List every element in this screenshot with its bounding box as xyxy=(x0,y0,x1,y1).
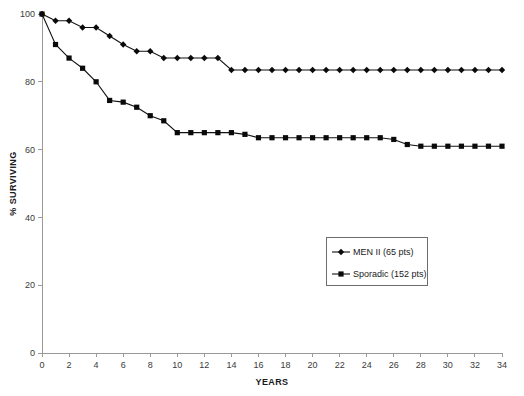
legend-label: Sporadic (152 pts) xyxy=(353,269,427,279)
data-point-marker xyxy=(432,144,437,149)
data-point-marker xyxy=(336,67,342,73)
data-point-marker xyxy=(283,135,288,140)
x-tick-label: 18 xyxy=(281,360,291,370)
series-line xyxy=(42,14,502,146)
x-tick-label: 16 xyxy=(253,360,263,370)
x-tick-label: 20 xyxy=(308,360,318,370)
series-layer xyxy=(39,11,505,149)
data-point-marker xyxy=(215,130,220,135)
data-point-marker xyxy=(309,67,315,73)
x-tick-label: 22 xyxy=(335,360,345,370)
survival-chart: 020406080100 024681012141618202224262830… xyxy=(0,0,524,396)
data-point-marker xyxy=(378,135,383,140)
data-point-marker xyxy=(499,67,505,73)
data-point-marker xyxy=(499,144,504,149)
x-tick-label: 0 xyxy=(39,360,44,370)
data-point-marker xyxy=(66,55,71,60)
data-point-marker xyxy=(66,18,72,24)
data-point-marker xyxy=(52,18,58,24)
series-line xyxy=(42,14,502,70)
data-point-marker xyxy=(472,144,477,149)
data-point-marker xyxy=(364,67,370,73)
data-point-marker xyxy=(242,132,247,137)
data-point-marker xyxy=(418,67,424,73)
data-point-marker xyxy=(121,100,126,105)
data-point-marker xyxy=(242,67,248,73)
data-point-marker xyxy=(229,130,234,135)
data-point-marker xyxy=(39,11,44,16)
x-tick-label: 2 xyxy=(67,360,72,370)
data-point-marker xyxy=(310,135,315,140)
x-tick-label: 24 xyxy=(362,360,372,370)
data-point-marker xyxy=(255,67,261,73)
data-point-marker xyxy=(445,144,450,149)
y-tick-label: 20 xyxy=(25,280,35,290)
data-point-marker xyxy=(458,67,464,73)
data-point-marker xyxy=(107,98,112,103)
x-tick-label: 10 xyxy=(172,360,182,370)
data-point-marker xyxy=(338,271,343,276)
data-point-marker xyxy=(175,130,180,135)
data-point-marker xyxy=(282,67,288,73)
data-point-marker xyxy=(323,67,329,73)
data-point-marker xyxy=(296,67,302,73)
data-point-marker xyxy=(431,67,437,73)
data-point-marker xyxy=(485,67,491,73)
chart-canvas: 020406080100 024681012141618202224262830… xyxy=(0,0,524,396)
data-point-marker xyxy=(269,67,275,73)
data-point-marker xyxy=(445,67,451,73)
x-tick-label: 32 xyxy=(470,360,480,370)
data-point-marker xyxy=(147,48,153,54)
data-point-marker xyxy=(418,144,423,149)
data-point-marker xyxy=(53,42,58,47)
series-2 xyxy=(39,11,504,148)
data-point-marker xyxy=(161,55,167,61)
data-point-marker xyxy=(486,144,491,149)
data-point-marker xyxy=(174,55,180,61)
x-tick-label: 14 xyxy=(226,360,236,370)
x-tick-label: 28 xyxy=(416,360,426,370)
data-point-marker xyxy=(404,67,410,73)
y-tick-label: 60 xyxy=(25,145,35,155)
data-point-marker xyxy=(134,105,139,110)
y-axis-title: % SURVIVING xyxy=(8,151,18,215)
data-point-marker xyxy=(120,41,126,47)
data-point-marker xyxy=(106,33,112,39)
y-tick-label: 40 xyxy=(25,213,35,223)
data-point-marker xyxy=(188,55,194,61)
data-point-marker xyxy=(364,135,369,140)
x-tick-label: 34 xyxy=(497,360,507,370)
series-1 xyxy=(39,11,505,73)
data-point-marker xyxy=(351,135,356,140)
data-point-marker xyxy=(337,135,342,140)
data-point-marker xyxy=(148,113,153,118)
data-point-marker xyxy=(161,118,166,123)
x-tick-label: 12 xyxy=(199,360,209,370)
x-tick-label: 26 xyxy=(389,360,399,370)
data-point-marker xyxy=(94,79,99,84)
data-point-marker xyxy=(472,67,478,73)
y-axis-ticks: 020406080100 xyxy=(20,9,42,358)
x-axis-title: YEARS xyxy=(255,377,288,387)
data-point-marker xyxy=(459,144,464,149)
data-point-marker xyxy=(391,67,397,73)
y-tick-label: 100 xyxy=(20,9,35,19)
x-axis-ticks: 0246810121416182022242628303234 xyxy=(39,353,507,370)
y-tick-label: 80 xyxy=(25,77,35,87)
data-point-marker xyxy=(188,130,193,135)
data-point-marker xyxy=(377,67,383,73)
data-point-marker xyxy=(80,66,85,71)
x-tick-label: 30 xyxy=(443,360,453,370)
data-point-marker xyxy=(296,135,301,140)
data-point-marker xyxy=(134,48,140,54)
data-point-marker xyxy=(391,137,396,142)
data-point-marker xyxy=(79,24,85,30)
data-point-marker xyxy=(256,135,261,140)
data-point-marker xyxy=(201,55,207,61)
y-tick-label: 0 xyxy=(30,348,35,358)
data-point-marker xyxy=(269,135,274,140)
data-point-marker xyxy=(350,67,356,73)
x-tick-label: 8 xyxy=(148,360,153,370)
x-tick-label: 6 xyxy=(121,360,126,370)
data-point-marker xyxy=(324,135,329,140)
